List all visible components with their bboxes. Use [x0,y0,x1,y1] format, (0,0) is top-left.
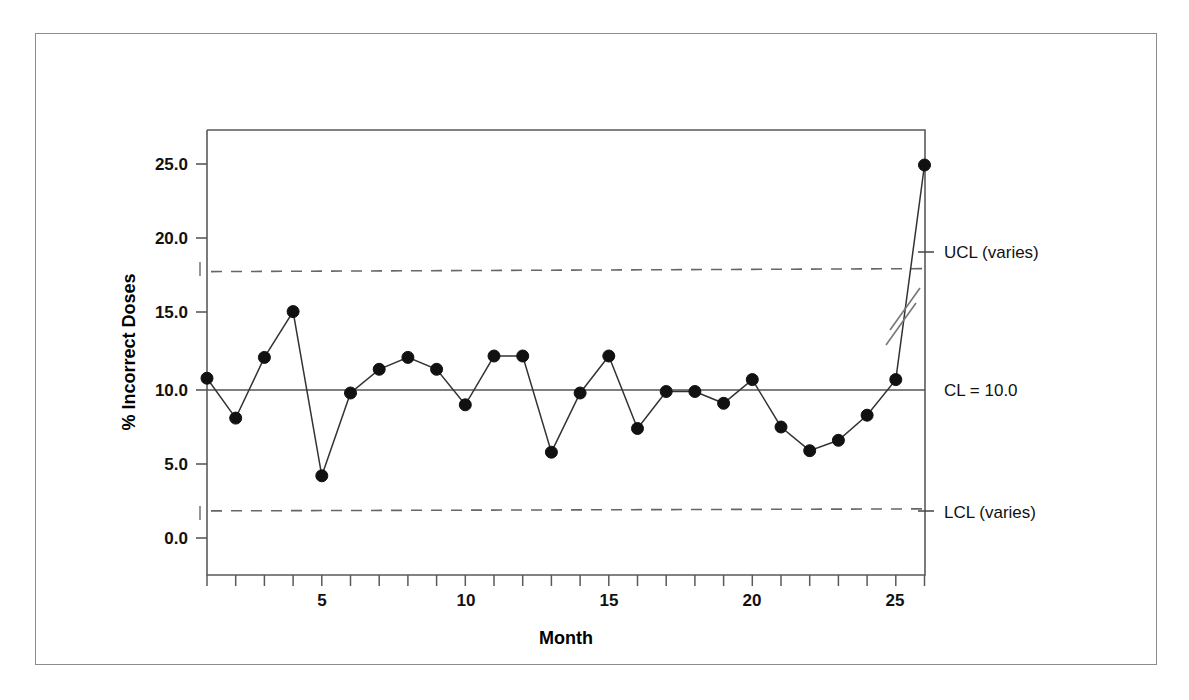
data-point-marker [488,350,500,362]
ucl-annotation-label: UCL (varies) [944,243,1039,262]
data-point-marker [890,374,902,386]
data-point-marker [230,412,242,424]
data-point-marker [861,409,873,421]
y-tick-label-15: 15.0 [155,303,188,322]
data-point-marker [345,387,357,399]
data-point-marker [258,351,270,363]
x-tick-labels: 5 10 15 20 25 [317,591,904,610]
x-tick-label-15: 15 [600,591,619,610]
data-point-marker [545,446,557,458]
y-tick-label-0: 0.0 [164,529,188,548]
data-point-marker [632,423,644,435]
y-tick-labels: 25.0 20.0 15.0 10.0 5.0 0.0 [155,155,188,548]
data-point-marker [287,306,299,318]
data-point-marker [832,434,844,446]
data-point-marker [459,399,471,411]
data-series-line [207,165,925,476]
data-point-marker [718,397,730,409]
plot-frame [207,130,925,575]
cl-annotation-label: CL = 10.0 [944,381,1018,400]
data-point-marker [574,387,586,399]
data-point-marker [689,386,701,398]
data-point-marker [660,386,672,398]
data-point-marker [775,421,787,433]
lcl-annotation-label: LCL (varies) [944,503,1036,522]
data-point-marker [603,350,615,362]
control-chart-figure: 25.0 20.0 15.0 10.0 5.0 0.0 % Incorrect … [0,0,1189,700]
data-point-marker [402,351,414,363]
upper-control-limit-line [211,269,925,272]
limit-callout-ticks [918,252,934,511]
y-tick-label-10: 10.0 [155,381,188,400]
data-point-marker [919,159,931,171]
x-tick-label-10: 10 [457,591,476,610]
data-point-markers [201,159,931,482]
y-tick-label-5: 5.0 [164,455,188,474]
x-tick-label-20: 20 [743,591,762,610]
x-tick-label-25: 25 [886,591,905,610]
data-point-marker [316,470,328,482]
data-point-marker [746,374,758,386]
axis-break-marks [886,288,920,345]
data-point-marker [804,445,816,457]
data-point-marker [201,372,213,384]
y-axis-ticks [196,164,207,538]
y-tick-label-20: 20.0 [155,229,188,248]
data-point-marker [373,363,385,375]
x-axis-ticks [207,575,925,586]
x-tick-label-5: 5 [317,591,326,610]
data-point-marker [517,350,529,362]
y-axis-title: % Incorrect Doses [119,273,139,430]
lower-control-limit-line [211,509,925,511]
y-tick-label-25: 25.0 [155,155,188,174]
data-point-marker [431,363,443,375]
x-axis-title: Month [539,628,593,648]
control-chart-canvas: 25.0 20.0 15.0 10.0 5.0 0.0 % Incorrect … [0,0,1189,700]
